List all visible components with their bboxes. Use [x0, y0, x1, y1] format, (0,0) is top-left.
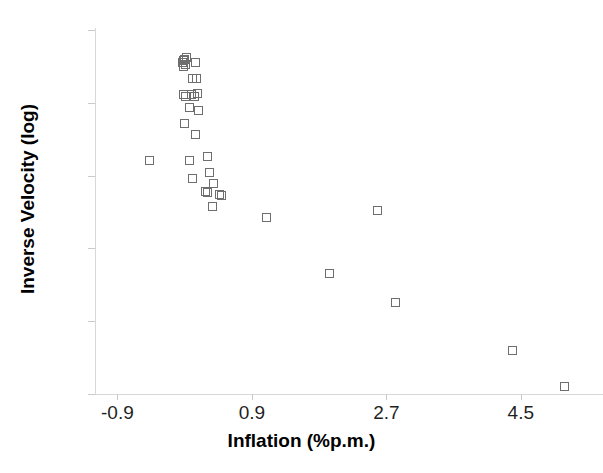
y-tick-mark: [88, 176, 95, 177]
data-point-marker: [194, 106, 203, 115]
data-point-marker: [373, 206, 382, 215]
data-point-marker: [508, 346, 517, 355]
data-point-marker: [191, 130, 200, 139]
data-point-marker: [185, 156, 194, 165]
y-tick-mark: [88, 321, 95, 322]
data-point-marker: [391, 298, 400, 307]
x-tick-label: 0.9: [212, 402, 292, 424]
data-point-marker: [217, 191, 226, 200]
data-point-marker: [325, 269, 334, 278]
y-tick-mark: [88, 103, 95, 104]
data-point-marker: [560, 382, 569, 391]
y-axis-line: [95, 28, 96, 395]
data-point-marker: [262, 213, 271, 222]
data-point-marker: [191, 58, 200, 67]
y-tick-mark: [88, 394, 95, 395]
data-point-marker: [185, 103, 194, 112]
data-point-marker: [209, 179, 218, 188]
data-point-marker: [179, 62, 188, 71]
x-tick-mark: [252, 394, 253, 400]
scatter-chart-figure: 234567 -0.90.92.74.5 Inflation (%p.m.) I…: [0, 0, 603, 473]
y-axis-title: Inverse Velocity (log): [17, 34, 39, 364]
data-point-marker: [188, 174, 197, 183]
x-tick-label: -0.9: [77, 402, 157, 424]
y-tick-mark: [88, 248, 95, 249]
data-point-marker: [180, 119, 189, 128]
data-point-marker: [203, 152, 212, 161]
x-axis-title: Inflation (%p.m.): [0, 430, 603, 452]
x-tick-mark: [521, 394, 522, 400]
y-tick-mark: [88, 30, 95, 31]
x-axis-line: [95, 394, 603, 395]
data-point-marker: [208, 202, 217, 211]
x-tick-label: 2.7: [346, 402, 426, 424]
data-point-marker: [205, 168, 214, 177]
x-tick-label: 4.5: [481, 402, 561, 424]
data-point-marker: [193, 89, 202, 98]
plot-area: [95, 30, 603, 394]
data-point-marker: [192, 74, 201, 83]
x-tick-mark: [386, 394, 387, 400]
data-point-marker: [145, 156, 154, 165]
data-point-marker: [182, 53, 191, 62]
x-tick-mark: [117, 394, 118, 400]
data-point-marker: [203, 188, 212, 197]
